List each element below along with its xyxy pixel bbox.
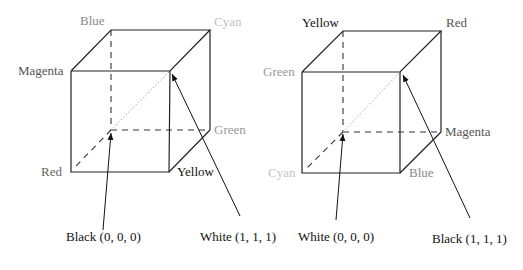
label-cyan: Cyan — [268, 165, 296, 180]
cmy-far-arrow — [403, 75, 470, 218]
rgb-cube-edges — [71, 30, 210, 172]
label-red: Red — [446, 15, 467, 30]
label-blue: Blue — [409, 165, 434, 180]
callout-black-origin: Black (0, 0, 0) — [66, 229, 141, 244]
label-yellow: Yellow — [302, 15, 340, 30]
callout-black-far: Black (1, 1, 1) — [432, 231, 507, 246]
callout-white-far: White (1, 1, 1) — [200, 229, 276, 244]
label-cyan: Cyan — [214, 14, 242, 29]
label-blue: Blue — [80, 13, 105, 28]
label-magenta: Magenta — [445, 124, 491, 139]
label-magenta: Magenta — [18, 63, 64, 78]
rgb-far-arrow — [172, 74, 240, 216]
cmy-gray-diagonal — [343, 72, 400, 132]
cmy-origin-arrow — [336, 134, 343, 220]
cmy-cube: Yellow Red Green Magenta Cyan Blue White… — [263, 15, 507, 246]
label-yellow: Yellow — [177, 164, 215, 179]
color-cube-diagram: Blue Cyan Magenta Green Red Yellow Black… — [0, 0, 523, 270]
rgb-origin-arrow — [103, 133, 111, 230]
callout-white-origin: White (0, 0, 0) — [298, 229, 374, 244]
label-green: Green — [214, 122, 246, 137]
rgb-cube: Blue Cyan Magenta Green Red Yellow Black… — [18, 13, 276, 244]
rgb-gray-diagonal — [111, 71, 170, 130]
label-red: Red — [41, 164, 62, 179]
label-green: Green — [263, 64, 295, 79]
cmy-cube-edges — [302, 31, 441, 173]
